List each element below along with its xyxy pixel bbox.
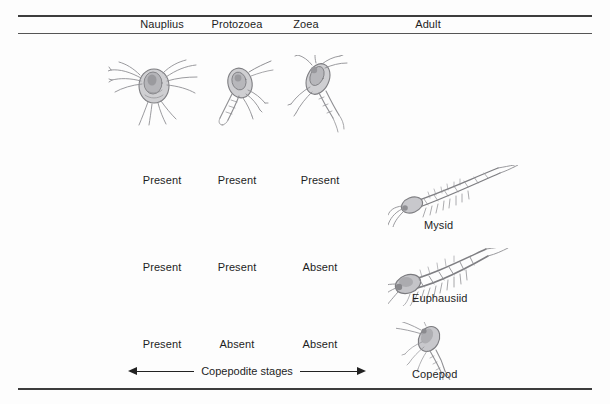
arrow-line-right	[300, 371, 358, 372]
cell-euphausiid-zoea: Absent	[303, 261, 338, 274]
cell-mysid-nauplius: Present	[143, 174, 182, 187]
organism-label-euphausiid: Euphausiid	[412, 292, 467, 305]
copepodite-stages-label: Copepodite stages	[198, 363, 296, 379]
organism-label-mysid: Mysid	[424, 219, 453, 232]
larval-stage-table: Nauplius Protozoea Zoea Adult	[0, 0, 610, 404]
cell-euphausiid-nauplius: Present	[143, 261, 182, 274]
table-bottom-rule	[18, 388, 592, 390]
mysid-adult-illustration	[388, 165, 518, 227]
arrow-line-left	[136, 371, 194, 372]
column-header-adult: Adult	[415, 18, 441, 31]
column-header-protozoea: Protozoea	[211, 18, 262, 31]
cell-copepod-nauplius: Present	[143, 338, 182, 351]
column-header-zoea: Zoea	[293, 18, 318, 31]
cell-euphausiid-protozoea: Present	[218, 261, 257, 274]
column-header-nauplius: Nauplius	[140, 18, 184, 31]
protozoea-larva-illustration	[212, 60, 274, 126]
zoea-larva-illustration	[282, 55, 352, 133]
cell-mysid-protozoea: Present	[218, 174, 257, 187]
right-arrow-icon	[357, 367, 366, 375]
table-top-rule	[18, 15, 592, 17]
copepodite-stages-arrow: Copepodite stages	[128, 363, 366, 379]
cell-mysid-zoea: Present	[301, 174, 340, 187]
cell-copepod-zoea: Absent	[303, 338, 338, 351]
table-header-rule	[18, 33, 592, 34]
organism-label-copepod: Copepod	[412, 368, 457, 381]
nauplius-larva-illustration	[108, 58, 200, 126]
cell-copepod-protozoea: Absent	[220, 338, 255, 351]
